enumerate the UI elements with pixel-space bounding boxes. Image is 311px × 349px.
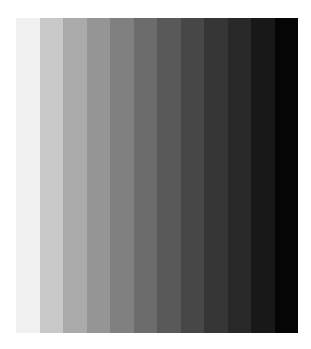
gray-stripe-4 (87, 18, 111, 333)
gray-stripe-10 (228, 18, 252, 333)
gray-stripe-11 (251, 18, 275, 333)
gray-stripe-6 (134, 18, 158, 333)
gray-stripe-9 (204, 18, 228, 333)
image-canvas (0, 0, 311, 349)
gray-stripe-8 (181, 18, 205, 333)
gray-stripe-2 (40, 18, 64, 333)
gray-stripe-1 (16, 18, 40, 333)
gray-stripe-7 (157, 18, 181, 333)
gray-stripe-5 (110, 18, 134, 333)
grayscale-swatch-panel (16, 18, 298, 333)
gray-stripe-12 (275, 18, 299, 333)
gray-stripe-3 (63, 18, 87, 333)
